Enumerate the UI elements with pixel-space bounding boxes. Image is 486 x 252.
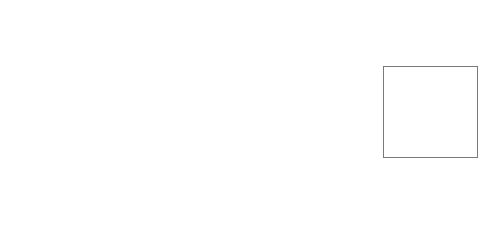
chart-figure xyxy=(0,0,486,252)
legend-box xyxy=(383,66,478,158)
plot-area xyxy=(62,21,372,197)
x-axis-ticks xyxy=(0,203,486,223)
chart-canvas xyxy=(62,21,372,197)
